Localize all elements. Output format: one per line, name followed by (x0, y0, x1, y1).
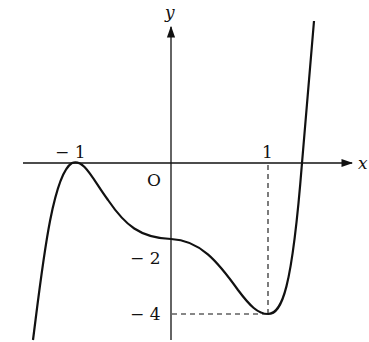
y-axis-label: y (164, 2, 175, 22)
x-axis-label: x (358, 153, 368, 173)
function-graph: y x O − 1 1 − 2 − 4 (0, 0, 369, 342)
x-tick-label-neg1: − 1 (55, 142, 85, 162)
origin-label: O (147, 170, 161, 190)
x-tick-label-1: 1 (262, 142, 273, 162)
y-tick-label-neg2: − 2 (130, 248, 160, 268)
function-curve (33, 21, 314, 340)
y-tick-label-neg4: − 4 (130, 304, 160, 324)
